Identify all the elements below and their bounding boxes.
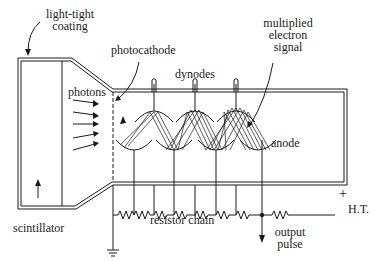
label-light-tight-coating: light-tight coating bbox=[40, 8, 100, 32]
label-resistor-chain: resistor chain bbox=[150, 214, 214, 226]
label-photocathode: photocathode bbox=[111, 44, 176, 56]
photocathode-leader bbox=[118, 62, 139, 99]
ht-plus-sign: + bbox=[339, 188, 347, 200]
label-line: pulse bbox=[262, 238, 318, 250]
label-ht: H.T. bbox=[348, 203, 369, 215]
label-line: coating bbox=[40, 20, 100, 32]
label-line: signal bbox=[252, 41, 324, 53]
label-photons: photons bbox=[68, 86, 106, 98]
signal-leader bbox=[250, 63, 273, 125]
resistor-chain bbox=[113, 211, 335, 219]
label-output-pulse: output pulse bbox=[262, 226, 318, 250]
bottom-dynodes bbox=[116, 140, 276, 215]
label-anode: anode bbox=[271, 137, 300, 149]
label-dynodes: dynodes bbox=[175, 68, 215, 80]
label-scintillator: scintillator bbox=[13, 222, 64, 234]
label-multiplied-electron-signal: multiplied electron signal bbox=[252, 17, 324, 53]
photon-arrows bbox=[73, 100, 95, 150]
electron-paths bbox=[120, 108, 270, 150]
ground-icon bbox=[107, 250, 119, 256]
coating-leader bbox=[28, 22, 40, 52]
